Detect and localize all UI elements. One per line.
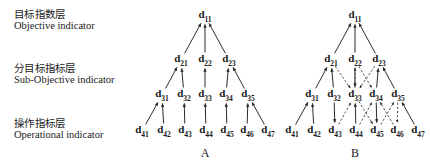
layer-label-operational-cn: 操作指标层 bbox=[14, 117, 104, 129]
node-d41: d41 bbox=[135, 123, 149, 138]
edge-d46-to-d35 bbox=[247, 104, 248, 124]
node-d42-subscript: 42 bbox=[313, 130, 321, 139]
edge-d21-to-d11 bbox=[335, 23, 351, 53]
edge-d44-to-d33 bbox=[205, 104, 206, 124]
edge-d45-to-d34 bbox=[226, 104, 227, 124]
edge-d34-to-d23 bbox=[227, 68, 229, 87]
node-d34-subscript: 34 bbox=[375, 94, 383, 103]
edge-d22-to-d34 bbox=[359, 66, 372, 87]
node-d23: d23 bbox=[372, 52, 386, 67]
node-d47-subscript: 47 bbox=[267, 130, 275, 139]
node-d21: d21 bbox=[174, 52, 188, 67]
node-d43-subscript: 43 bbox=[184, 130, 192, 139]
node-d35: d35 bbox=[241, 87, 255, 102]
diagram-edges-a bbox=[130, 0, 280, 165]
edge-d44-to-d33 bbox=[355, 104, 356, 124]
node-d31: d31 bbox=[155, 87, 169, 102]
node-d22: d22 bbox=[348, 52, 362, 67]
edge-d43-to-d32 bbox=[184, 104, 185, 124]
node-d41-subscript: 41 bbox=[141, 130, 149, 139]
layer-label-operational-en: Operational indicator bbox=[14, 129, 104, 141]
edge-d32-to-d21 bbox=[332, 68, 334, 87]
node-d46-subscript: 46 bbox=[396, 130, 404, 139]
node-d47: d47 bbox=[261, 123, 275, 138]
edge-d47-to-d35 bbox=[252, 102, 264, 124]
node-d32-subscript: 32 bbox=[333, 94, 341, 103]
node-d41: d41 bbox=[285, 123, 299, 138]
figure-canvas: 目标指数层 Objective indicator 分目标指标层 Sub-Obj… bbox=[0, 0, 430, 165]
diagram-b: d11d21d22d23d31d32d33d34d35d41d42d43d44d… bbox=[280, 0, 430, 165]
node-d32-subscript: 32 bbox=[183, 94, 191, 103]
layer-label-operational: 操作指标层 Operational indicator bbox=[14, 117, 104, 141]
node-d21-subscript: 21 bbox=[180, 59, 188, 68]
node-d33: d33 bbox=[348, 87, 362, 102]
node-d46: d46 bbox=[240, 123, 254, 138]
edge-d43-to-d33 bbox=[339, 102, 351, 124]
node-d11-subscript: 11 bbox=[205, 15, 212, 24]
node-d35: d35 bbox=[391, 87, 405, 102]
node-d35-subscript: 35 bbox=[247, 94, 255, 103]
node-d44-subscript: 44 bbox=[355, 130, 363, 139]
node-d43: d43 bbox=[328, 123, 342, 138]
node-d33-subscript: 33 bbox=[354, 94, 362, 103]
node-d31-subscript: 31 bbox=[311, 94, 319, 103]
node-d43-subscript: 43 bbox=[334, 130, 342, 139]
node-d34: d34 bbox=[369, 87, 383, 102]
edge-d32-to-d43 bbox=[334, 103, 335, 123]
node-d45: d45 bbox=[370, 123, 384, 138]
layer-label-objective: 目标指数层 Objective indicator bbox=[14, 8, 95, 32]
edge-d35-to-d46 bbox=[397, 103, 398, 123]
node-d32: d32 bbox=[177, 87, 191, 102]
node-d46: d46 bbox=[390, 123, 404, 138]
node-d21-subscript: 21 bbox=[330, 59, 338, 68]
edge-d34-to-d45 bbox=[376, 103, 377, 123]
edge-d42-to-d31 bbox=[162, 103, 163, 123]
edge-d23-to-d33 bbox=[360, 66, 375, 88]
node-d46-subscript: 46 bbox=[246, 130, 254, 139]
node-d44-subscript: 44 bbox=[205, 130, 213, 139]
diagram-caption-a: A bbox=[201, 146, 210, 161]
node-d11: d11 bbox=[348, 8, 361, 23]
node-d23-subscript: 23 bbox=[378, 59, 386, 68]
edge-d41-to-d31 bbox=[296, 102, 308, 124]
edge-d31-to-d21 bbox=[166, 67, 177, 88]
node-d23: d23 bbox=[222, 52, 236, 67]
layer-label-objective-en: Objective indicator bbox=[14, 20, 95, 32]
layer-label-sub-objective: 分目标指标层 Sub-Objective indicator bbox=[14, 62, 115, 86]
layer-label-column: 目标指数层 Objective indicator 分目标指标层 Sub-Obj… bbox=[0, 0, 140, 165]
edge-d35-to-d23 bbox=[383, 67, 394, 88]
edge-d23-to-d11 bbox=[209, 23, 225, 53]
node-d22-subscript: 22 bbox=[354, 59, 362, 68]
node-d22-subscript: 22 bbox=[204, 59, 212, 68]
edge-d35-to-d23 bbox=[233, 67, 244, 88]
node-d42: d42 bbox=[307, 123, 321, 138]
node-d45-subscript: 45 bbox=[226, 130, 234, 139]
node-d44: d44 bbox=[199, 123, 213, 138]
node-d45: d45 bbox=[220, 123, 234, 138]
node-d45-subscript: 45 bbox=[376, 130, 384, 139]
diagram-caption-b: B bbox=[351, 146, 359, 161]
edge-d46-to-d34 bbox=[380, 102, 393, 124]
node-d33: d33 bbox=[198, 87, 212, 102]
node-d33-subscript: 33 bbox=[204, 94, 212, 103]
diagram-a: d11d21d22d23d31d32d33d34d35d41d42d43d44d… bbox=[130, 0, 280, 165]
edge-d32-to-d21 bbox=[182, 68, 184, 87]
node-d44: d44 bbox=[349, 123, 363, 138]
layer-label-sub-objective-en: Sub-Objective indicator bbox=[14, 74, 115, 86]
node-d31: d31 bbox=[305, 87, 319, 102]
edge-d23-to-d11 bbox=[359, 23, 375, 53]
diagram-edges-b bbox=[280, 0, 430, 165]
node-d31-subscript: 31 bbox=[161, 94, 169, 103]
node-d42-subscript: 42 bbox=[163, 130, 171, 139]
node-d47: d47 bbox=[411, 123, 425, 138]
node-d11: d11 bbox=[198, 8, 211, 23]
node-d41-subscript: 41 bbox=[291, 130, 299, 139]
node-d23-subscript: 23 bbox=[228, 59, 236, 68]
layer-label-sub-objective-cn: 分目标指标层 bbox=[14, 62, 115, 74]
node-d11-subscript: 11 bbox=[355, 15, 362, 24]
node-d32: d32 bbox=[327, 87, 341, 102]
node-d21: d21 bbox=[324, 52, 338, 67]
edge-d47-to-d35 bbox=[402, 102, 414, 124]
node-d42: d42 bbox=[157, 123, 171, 138]
layer-label-objective-cn: 目标指数层 bbox=[14, 8, 95, 20]
